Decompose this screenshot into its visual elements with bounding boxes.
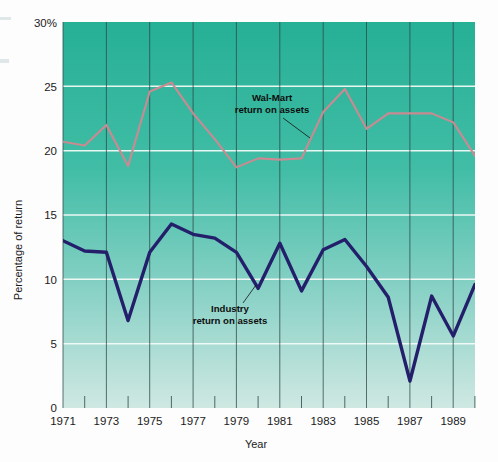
x-tick-label: 1983 — [310, 415, 336, 427]
y-axis-title: Percentage of return — [12, 200, 24, 300]
x-tick-label: 1985 — [354, 415, 380, 427]
x-tick-label: 1975 — [137, 415, 163, 427]
x-tick-label: 1987 — [397, 415, 423, 427]
x-tick-label: 1981 — [267, 415, 293, 427]
y-tick-label: 5 — [51, 338, 57, 350]
annotation-industry-line1: Industry — [211, 303, 250, 314]
x-axis-title: Year — [245, 438, 268, 450]
x-tick-label: 1977 — [180, 415, 206, 427]
x-tick-label: 1973 — [94, 415, 120, 427]
return-on-assets-line-chart: 30% 25 20 15 10 5 0 Percentage of return… — [0, 0, 498, 462]
y-tick-label: 10 — [44, 274, 57, 286]
y-tick-label: 0 — [51, 402, 57, 414]
annotation-industry-line2: return on assets — [193, 315, 268, 326]
y-axis-tick-labels: 30% 25 20 15 10 5 0 — [34, 17, 57, 415]
x-axis-tick-labels: 1971 1973 1975 1977 1979 1981 1983 1985 … — [50, 415, 466, 427]
x-tick-label: 1979 — [224, 415, 250, 427]
annotation-walmart-line1: Wal-Mart — [252, 92, 293, 103]
annotation-walmart-line2: return on assets — [235, 104, 310, 115]
x-tick-label: 1989 — [440, 415, 466, 427]
chart-figure: 30% 25 20 15 10 5 0 Percentage of return… — [0, 0, 498, 462]
y-tick-label: 15 — [44, 209, 57, 221]
x-tick-label: 1971 — [50, 415, 76, 427]
y-tick-label: 25 — [44, 81, 57, 93]
y-tick-label: 30% — [34, 17, 57, 29]
y-tick-label: 20 — [44, 145, 57, 157]
